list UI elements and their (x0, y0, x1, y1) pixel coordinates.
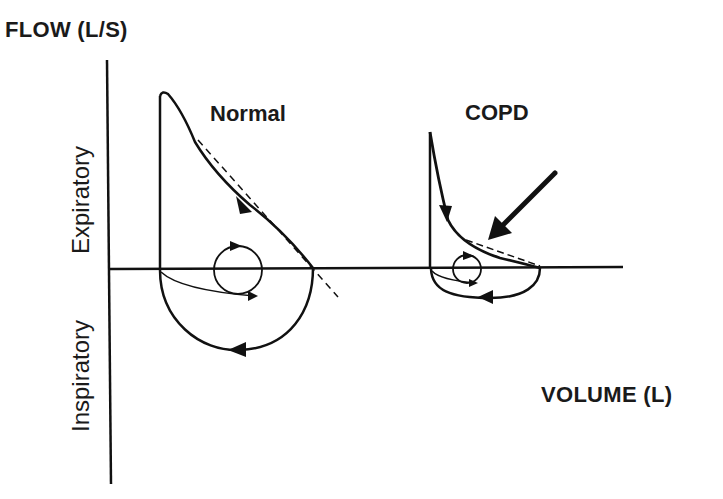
copd-tidal-loop (453, 255, 481, 283)
normal-inner-arrow-icon (248, 291, 258, 301)
y-axis-line (107, 60, 111, 484)
copd-tidal-arrow-icon (463, 251, 474, 260)
axes (107, 60, 623, 484)
copd-loop (430, 132, 555, 304)
normal-expiratory-limb (160, 92, 313, 268)
copd-concavity-pointer-shaft (503, 173, 555, 225)
normal-tidal-arrow-icon (230, 241, 242, 251)
x-axis-line (110, 267, 623, 269)
normal-loop (160, 92, 338, 357)
normal-inspiratory-limb (160, 268, 313, 350)
copd-expiratory-limb (430, 132, 540, 268)
normal-inspiratory-arrow-icon (228, 342, 246, 357)
normal-inner-curve (161, 272, 255, 296)
copd-inspiratory-arrow-icon (478, 290, 493, 304)
normal-tidal-loop (214, 246, 262, 294)
flow-volume-diagram (0, 0, 723, 499)
copd-expiratory-arrow-icon (439, 205, 452, 222)
copd-tangent-dashed (466, 240, 540, 266)
